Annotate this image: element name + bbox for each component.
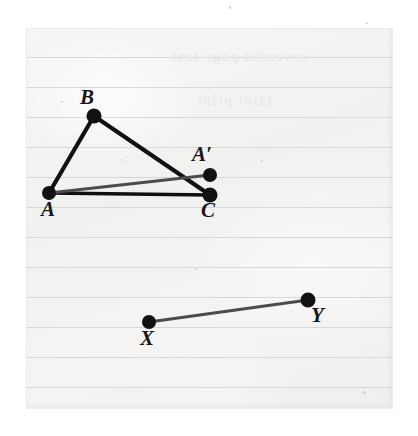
- segment-AAp: [49, 175, 210, 193]
- point-label-C: C: [201, 200, 215, 221]
- geometry-figure-screenshot: reversed page textfaint print ABA′CXY: [0, 0, 418, 436]
- point-label-A: A: [41, 199, 55, 220]
- point-label-B: B: [80, 87, 94, 108]
- paper-speck: [366, 22, 368, 24]
- segment-AB: [49, 116, 94, 193]
- vertices-layer: [42, 109, 316, 330]
- paper-speck: [363, 391, 366, 394]
- paper-speck: [261, 160, 263, 162]
- segment-AC: [49, 193, 210, 195]
- vertex-dot-B: [87, 109, 102, 124]
- vertex-dot-Ap: [203, 168, 217, 182]
- paper-speck: [121, 159, 123, 161]
- segment-XY: [149, 300, 308, 322]
- paper-speck: [195, 268, 197, 270]
- segments-layer: [49, 116, 308, 322]
- point-label-Y: Y: [311, 305, 324, 326]
- paper-speck: [229, 6, 231, 9]
- point-label-Ap: A′: [192, 144, 212, 165]
- paper-speck: [61, 101, 63, 103]
- point-label-X: X: [140, 328, 154, 349]
